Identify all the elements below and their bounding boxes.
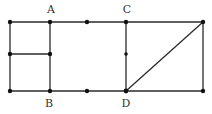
- point-bottom-right: [201, 89, 205, 93]
- point-mid-left: [8, 52, 12, 56]
- label-A: A: [46, 3, 56, 16]
- point-bottom-left: [8, 89, 12, 93]
- diagonal-D-to-top-right: [126, 22, 203, 91]
- label-C: C: [123, 3, 131, 16]
- geometry-diagram: A B C D: [0, 0, 212, 114]
- point-A: [48, 20, 52, 24]
- point-bottom-mid: [85, 89, 89, 93]
- point-top-right: [201, 20, 205, 24]
- label-D: D: [122, 97, 131, 110]
- point-C: [124, 20, 128, 24]
- label-B: B: [45, 97, 53, 110]
- point-mid-CD: [124, 52, 128, 56]
- points: [8, 20, 205, 94]
- point-top-mid: [85, 20, 89, 24]
- labels: A B C D: [45, 3, 131, 110]
- point-B: [48, 89, 52, 93]
- point-top-left: [8, 20, 12, 24]
- point-mid-AB: [48, 52, 52, 56]
- segments: [10, 22, 203, 91]
- point-D: [124, 89, 129, 94]
